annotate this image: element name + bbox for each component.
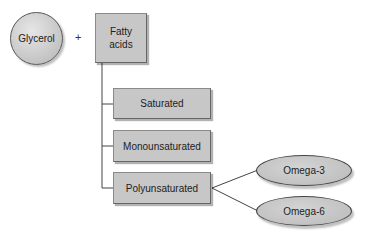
polyunsaturated-label: Polyunsaturated	[126, 183, 198, 194]
saturated-node: Saturated	[113, 88, 211, 119]
monounsaturated-label: Monounsaturated	[123, 141, 201, 152]
fatty-acids-label-line1: Fatty	[110, 25, 132, 38]
saturated-label: Saturated	[140, 98, 183, 109]
fatty-acids-label-line2: acids	[109, 38, 132, 51]
omega-6-node: Omega-6	[256, 196, 352, 226]
omega-3-node: Omega-3	[256, 155, 352, 186]
fatty-acids-node: Fatty acids	[95, 13, 147, 63]
omega-6-label: Omega-6	[283, 206, 325, 217]
glycerol-node: Glycerol	[10, 12, 63, 65]
fatty-acid-diagram: Glycerol + Fatty acids Saturated Monouns…	[0, 0, 368, 239]
plus-operator: +	[75, 31, 81, 43]
omega-3-label: Omega-3	[283, 165, 325, 176]
monounsaturated-node: Monounsaturated	[113, 130, 211, 162]
glycerol-label: Glycerol	[18, 33, 55, 44]
polyunsaturated-node: Polyunsaturated	[113, 172, 211, 204]
